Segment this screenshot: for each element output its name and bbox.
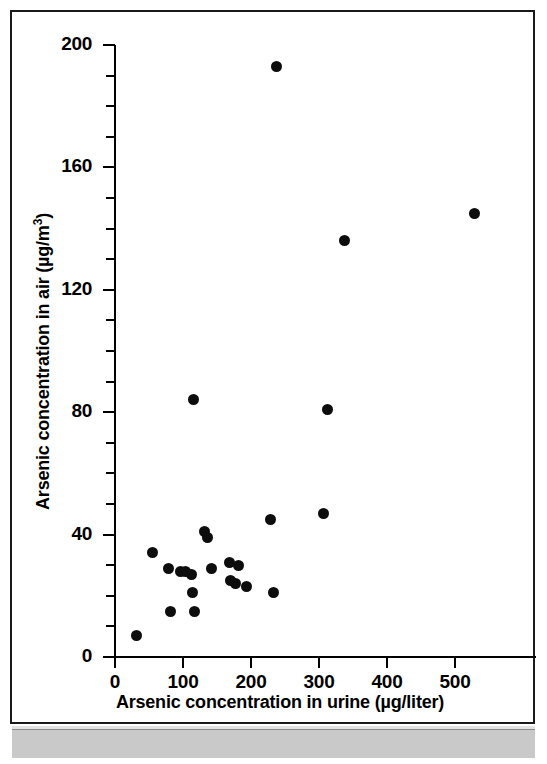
data-point: [206, 563, 217, 574]
figure-root: 040801201602000100200300400500 Arsenic c…: [0, 0, 547, 764]
x-tick-major: [182, 657, 184, 668]
y-tick-minor: [106, 197, 115, 199]
data-point: [186, 569, 197, 580]
y-tick-major: [103, 44, 115, 46]
y-tick-minor: [106, 472, 115, 474]
data-point: [265, 514, 276, 525]
x-tick-major: [250, 657, 252, 668]
data-point: [241, 581, 252, 592]
y-tick-minor: [106, 503, 115, 505]
data-point: [271, 61, 282, 72]
y-tick-label: 0: [36, 645, 92, 667]
data-point: [230, 578, 241, 589]
y-tick-minor: [106, 136, 115, 138]
scatter-plot: 040801201602000100200300400500 Arsenic c…: [0, 0, 547, 764]
y-tick-minor: [106, 258, 115, 260]
x-axis-line: [114, 656, 536, 658]
data-point: [339, 235, 350, 246]
y-axis-title-suffix: ): [33, 213, 53, 219]
data-point: [268, 587, 279, 598]
x-tick-label: 100: [153, 671, 213, 693]
data-point: [163, 563, 174, 574]
y-tick-minor: [106, 564, 115, 566]
y-tick-minor: [106, 228, 115, 230]
x-tick-major: [114, 657, 116, 668]
page-bottom-band: [12, 729, 535, 758]
y-tick-minor: [106, 381, 115, 383]
x-tick-major: [454, 657, 456, 668]
x-tick-major: [318, 657, 320, 668]
y-tick-major: [103, 411, 115, 413]
y-axis-title: Arsenic concentration in air (µg/m3): [31, 152, 54, 572]
data-point: [188, 394, 199, 405]
y-tick-major: [103, 534, 115, 536]
y-tick-minor: [106, 319, 115, 321]
data-point: [131, 630, 142, 641]
data-point: [202, 532, 213, 543]
y-tick-minor: [106, 75, 115, 77]
data-point: [189, 606, 200, 617]
data-point: [233, 560, 244, 571]
x-tick-label: 500: [425, 671, 485, 693]
data-point: [165, 606, 176, 617]
data-point: [147, 547, 158, 558]
x-axis-title-text: Arsenic concentration in urine (µg/liter…: [116, 692, 444, 712]
x-tick-major: [386, 657, 388, 668]
data-point: [318, 508, 329, 519]
x-tick-label: 300: [289, 671, 349, 693]
x-axis-title: Arsenic concentration in urine (µg/liter…: [60, 692, 500, 713]
x-tick-label: 200: [221, 671, 281, 693]
y-tick-label: 200: [36, 33, 92, 55]
y-tick-minor: [106, 595, 115, 597]
y-tick-minor: [106, 105, 115, 107]
y-tick-major: [103, 289, 115, 291]
y-tick-minor: [106, 625, 115, 627]
y-axis-title-superscript: 3: [31, 219, 45, 225]
data-point: [469, 208, 480, 219]
x-tick-label: 400: [357, 671, 417, 693]
y-tick-minor: [106, 442, 115, 444]
y-tick-minor: [106, 350, 115, 352]
data-point: [322, 404, 333, 415]
y-axis-title-prefix: Arsenic concentration in air (µg/m: [33, 225, 53, 510]
y-tick-major: [103, 166, 115, 168]
data-point: [187, 587, 198, 598]
x-tick-label: 0: [85, 671, 145, 693]
